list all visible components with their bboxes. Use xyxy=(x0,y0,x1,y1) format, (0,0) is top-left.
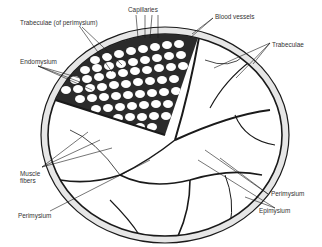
label-trabeculae: Trabeculae xyxy=(272,41,304,48)
label-muscle-fibers-line1: Muscle xyxy=(20,170,40,177)
label-muscle-fibers-line2: fibers xyxy=(20,177,36,184)
label-perimysium-left: Perimysium xyxy=(18,212,51,219)
label-muscle-fibers: Muscle fibers xyxy=(20,170,40,185)
label-capillaries: Capillaries xyxy=(128,6,158,13)
label-endomysium: Endomysium xyxy=(20,58,57,65)
label-epimysium: Epimysium xyxy=(259,207,290,214)
label-trabeculae-of-perimysium: Trabeculae (of perimysium) xyxy=(20,19,98,26)
label-blood-vessels: Blood vessels xyxy=(215,13,254,20)
label-perimysium-right: Perimysium xyxy=(271,190,304,197)
